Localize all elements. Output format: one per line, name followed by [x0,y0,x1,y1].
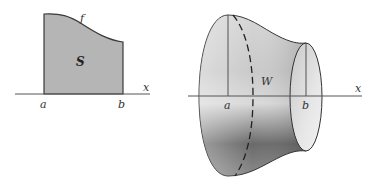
region-s [44,14,123,94]
tick-label-a-left: a [40,98,47,111]
tick-label-b-right: b [302,99,309,112]
axis-label-x-left: x [143,81,150,94]
tick-label-b-left: b [118,98,125,111]
diagram-canvas: f S x a b W x a b [0,0,376,183]
tick-label-a-right: a [224,99,231,112]
curve-label-f: f [79,12,86,25]
region-label-s: S [76,55,85,69]
solid-of-revolution-figure: W x a b [188,15,362,176]
solid-label-w: W [261,75,274,88]
axis-label-x-right: x [355,82,362,95]
area-under-curve-figure: f S x a b [15,12,150,111]
